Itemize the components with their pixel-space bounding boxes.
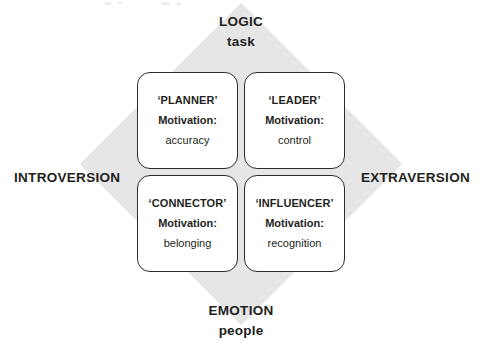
quadrant-title: ‘LEADER’ xyxy=(268,95,320,106)
quadrant-motivation-value: control xyxy=(278,135,311,146)
quadrant-card-influencer[interactable]: ‘INFLUENCER’ Motivation: recognition xyxy=(244,175,345,272)
quadrant-title: ‘INFLUENCER’ xyxy=(255,198,333,209)
quadrant-motivation-label: Motivation: xyxy=(265,115,324,126)
scan-artifact-speck xyxy=(104,2,111,5)
quadrant-title: ‘CONNECTOR’ xyxy=(149,198,227,209)
quadrant-card-leader[interactable]: ‘LEADER’ Motivation: control xyxy=(244,72,345,169)
scan-artifact-speck xyxy=(176,2,181,5)
quadrant-motivation-label: Motivation: xyxy=(265,218,324,229)
quadrant-diagram: LOGIC task EMOTION people INTROVERSION E… xyxy=(0,0,482,360)
quadrant-title: ‘PLANNER’ xyxy=(157,95,217,106)
scan-artifact-speck xyxy=(161,2,170,5)
scan-artifact-speck xyxy=(118,1,122,4)
quadrant-card-planner[interactable]: ‘PLANNER’ Motivation: accuracy xyxy=(137,72,238,169)
axis-top-primary-label: LOGIC xyxy=(0,14,482,29)
axis-label-left: INTROVERSION xyxy=(14,170,120,185)
quadrant-card-connector[interactable]: ‘CONNECTOR’ Motivation: belonging xyxy=(137,175,238,272)
axis-bottom-secondary-label: people xyxy=(0,323,482,338)
axis-label-bottom: EMOTION people xyxy=(0,303,482,338)
quadrant-motivation-value: accuracy xyxy=(165,135,209,146)
quadrant-motivation-label: Motivation: xyxy=(158,115,217,126)
quadrant-grid: ‘PLANNER’ Motivation: accuracy ‘LEADER’ … xyxy=(137,72,345,272)
axis-label-top: LOGIC task xyxy=(0,14,482,49)
quadrant-motivation-label: Motivation: xyxy=(158,218,217,229)
quadrant-motivation-value: recognition xyxy=(268,238,322,249)
axis-label-right: EXTRAVERSION xyxy=(361,170,470,185)
quadrant-motivation-value: belonging xyxy=(164,238,212,249)
axis-top-secondary-label: task xyxy=(0,34,482,49)
axis-bottom-primary-label: EMOTION xyxy=(0,303,482,318)
